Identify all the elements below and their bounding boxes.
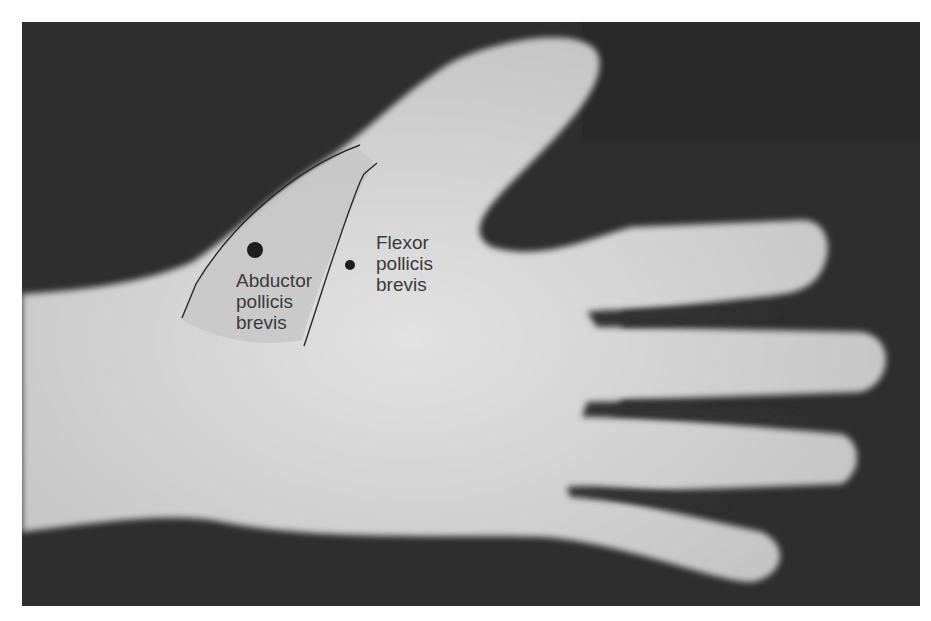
label-line: brevis (236, 312, 312, 333)
hand-illustration (22, 22, 920, 606)
label-line: pollicis (376, 253, 433, 274)
label-line: pollicis (236, 291, 312, 312)
flexor-pollicis-brevis-label: Flexor pollicis brevis (376, 232, 433, 295)
label-line: Abductor (236, 270, 312, 291)
hand-photo: Abductor pollicis brevis Flexor pollicis… (22, 22, 920, 606)
flexor-pollicis-brevis-point (345, 260, 355, 270)
label-line: brevis (376, 274, 433, 295)
label-line: Flexor (376, 232, 433, 253)
abductor-pollicis-brevis-point (247, 242, 263, 258)
abductor-pollicis-brevis-label: Abductor pollicis brevis (236, 270, 312, 333)
